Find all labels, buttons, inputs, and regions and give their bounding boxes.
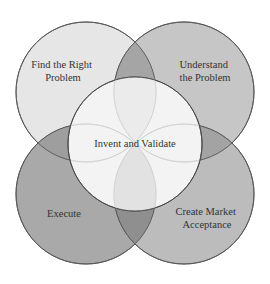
venn-diagram: Find the Right Problem Understand the Pr… [0, 0, 270, 284]
label-invent-validate: Invent and Validate [94, 138, 176, 149]
label-execute: Execute [47, 208, 81, 219]
